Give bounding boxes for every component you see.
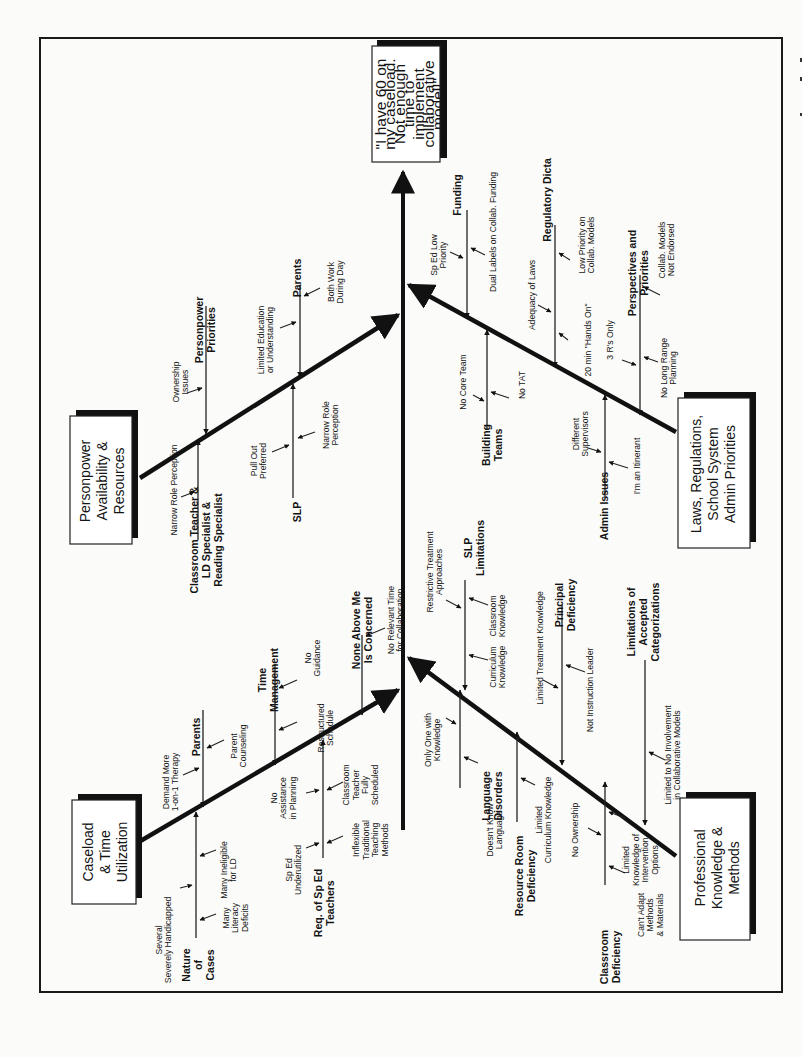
- cause-label: Limited to No Involvementin Collaborativ…: [663, 705, 683, 805]
- sub-cause-label: Parents: [190, 718, 202, 757]
- sub-cause-label: Perspectives andPriorities: [626, 230, 650, 316]
- cause-label: Pull OutPreferred: [249, 443, 269, 479]
- sub-cause-label: SLPLimitations: [462, 520, 486, 576]
- sub-cause-label: PrincipalDeficiency: [553, 579, 577, 632]
- sub-cause-label: PersonpowerPriorities: [193, 297, 217, 364]
- cause-label: InflexibleTraditionalTeachingMethods: [351, 820, 390, 860]
- cause-label: RestructuredSchedule: [316, 703, 336, 752]
- cause-label: I'm an Itinerant: [632, 437, 642, 494]
- cause-label: ClassroomKnowledge: [488, 595, 508, 638]
- cause-label: No Relevant Timefor Collaboration: [386, 586, 406, 655]
- cause-label: Not Instruction Leader: [585, 648, 595, 733]
- cause-label: OwnershipIssues: [171, 361, 191, 402]
- category-label-personpower: PersonpowerAvailability &Resources: [77, 439, 127, 522]
- sub-cause-label: None Above MeIs Concerned: [350, 591, 374, 670]
- sub-cause-label: Funding: [451, 174, 463, 215]
- labels: PersonpowerPrioritiesOwnershipIssuesPare…: [154, 158, 683, 984]
- edge-marks: [800, 58, 802, 116]
- cause-label: No Ownership: [570, 803, 580, 858]
- category-label-caseload: Caseload& TimeUtilization: [80, 822, 130, 883]
- cause-label: Can't AdaptMethods& Materials: [636, 892, 666, 937]
- cause-label: Both WorkDuring Day: [326, 260, 346, 304]
- cause-label: Sp Ed LowPriority: [429, 233, 449, 275]
- cause-label: Narrow RolePerception: [321, 401, 341, 449]
- cause-label: Limited Educationor Understanding: [256, 306, 276, 375]
- cause-label: Only One withKnowledge: [423, 713, 443, 767]
- sub-cause-label: Req. of Sp EdTeachers: [312, 869, 336, 937]
- category-box-laws: Laws, Regulations,School SystemAdmin Pri…: [678, 392, 756, 548]
- cause-label: NoGuidance: [303, 639, 323, 676]
- cause-label: Collab. ModelsNot Endorsed: [657, 222, 677, 279]
- cause-label: No Core Team: [458, 354, 468, 409]
- sub-cause-label: ClassroomDeficiency: [598, 930, 622, 984]
- cause-label: Adequacy of Laws: [527, 260, 537, 330]
- sub-cause-label: Regulatory Dicta: [541, 158, 553, 242]
- sub-cause-label: NatureofCases: [180, 948, 216, 981]
- category-box-professional: ProfessionalKnowledge &Methods: [680, 792, 756, 940]
- cause-label: 3 R's Only: [605, 320, 615, 360]
- sub-cause-label: Limitations ofAcceptedCategorizations: [625, 582, 661, 661]
- cause-label: SeveralSeverely Handicapped: [154, 897, 174, 984]
- cause-label: 20 min "Hands On": [583, 304, 593, 377]
- cause-label: ClassroomTeacherFullyScheduled: [341, 764, 380, 805]
- category-box-personpower: PersonpowerAvailability &Resources: [70, 410, 138, 544]
- sub-cause-label: Resource RoomDeficiency: [513, 836, 537, 917]
- cause-label: ManyLiteracyDeficits: [221, 902, 251, 933]
- sub-cause-label: Classroom Teacher &LD Specialist &Readin…: [188, 486, 224, 594]
- cause-label: Narrow Role Perception: [169, 444, 179, 535]
- category-box-caseload: Caseload& TimeUtilization: [72, 794, 142, 904]
- cause-label: NoAssistancein Planning: [269, 777, 299, 820]
- cause-label: Low Priority onCollab. Models: [577, 216, 597, 273]
- cause-label: Demand More1-on-1 Therapy: [161, 752, 181, 811]
- fishbone-diagram: "I have 60 onmy caseload.Not enoughtime …: [0, 0, 803, 1057]
- category-label-laws: Laws, Regulations,School SystemAdmin Pri…: [688, 415, 738, 533]
- sub-cause-label: Parents: [291, 259, 303, 298]
- cause-label: Limited Treatment Knowledge: [535, 591, 545, 705]
- cause-label: ParentCounseling: [229, 724, 249, 767]
- sub-cause-label: BuildingTeams: [480, 424, 504, 466]
- effect-box: "I have 60 onmy caseload.Not enoughtime …: [372, 40, 447, 162]
- cause-label: Many Ineligiblefor LD: [219, 841, 239, 899]
- cause-label: Restrictive TreatmentApproaches: [425, 531, 445, 613]
- cause-label: Dual Labels on Collab. Funding: [488, 172, 498, 292]
- cause-label: Sp EdUnderutilized: [284, 845, 304, 895]
- cause-label: CurriculumKnowledge: [488, 646, 508, 689]
- cause-label: DifferentSupervisors: [571, 411, 591, 456]
- cause-label: No TAT: [517, 370, 527, 399]
- sub-cause-label: Admin Issues: [598, 472, 610, 540]
- sub-cause-label: SLP: [291, 502, 303, 522]
- sub-cause-label: TimeManagement: [256, 647, 280, 712]
- page-frame: [40, 38, 782, 992]
- cause-label: No Long RangePlanning: [659, 338, 679, 398]
